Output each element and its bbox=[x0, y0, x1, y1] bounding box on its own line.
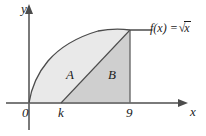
function-label: f(x) =√x bbox=[150, 21, 191, 34]
radical-group: √x bbox=[178, 21, 191, 34]
radicand-text: x bbox=[184, 21, 190, 34]
x-axis-arrowhead bbox=[178, 99, 188, 107]
tick-label-origin: 0 bbox=[22, 106, 29, 119]
region-label-a: A bbox=[66, 68, 74, 81]
tick-label-k: k bbox=[58, 106, 64, 119]
figure-container: y x 0 k 9 A B f(x) =√x bbox=[0, 0, 206, 136]
region-label-b: B bbox=[108, 68, 116, 81]
x-axis-label: x bbox=[190, 105, 196, 118]
y-axis-label: y bbox=[21, 2, 27, 15]
function-expression-text: f(x) = bbox=[150, 21, 178, 35]
tick-label-nine: 9 bbox=[126, 106, 133, 119]
